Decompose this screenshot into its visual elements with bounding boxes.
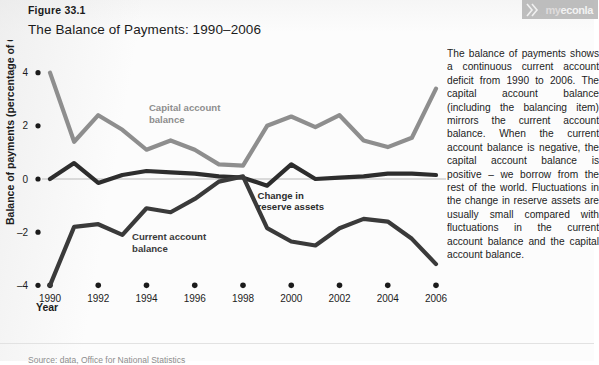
series-label: Current accountbalance <box>132 231 207 254</box>
y-tick-dot <box>35 70 40 75</box>
x-tick-dot <box>385 283 391 289</box>
y-tick-label: 0 <box>22 174 28 185</box>
balance-of-payments-chart: 420–2–4 19901992199419961998200020022004… <box>0 40 470 330</box>
y-tick-label: –4 <box>17 280 29 291</box>
series-line <box>50 176 436 285</box>
brand-name-prefix: my <box>545 4 560 16</box>
y-tick-dot <box>35 230 40 235</box>
y-axis-title: Balance of payments (percentage of GDP) <box>4 40 16 225</box>
brand-name: myeconla <box>545 4 593 16</box>
x-tick-label: 2004 <box>377 293 400 304</box>
x-tick-dot <box>337 283 343 289</box>
x-tick-dot <box>433 283 439 289</box>
figure-title: The Balance of Payments: 1990–2006 <box>28 22 261 37</box>
x-tick-dot <box>144 283 150 289</box>
x-tick-dot <box>192 283 198 289</box>
y-tick-dot <box>35 123 40 128</box>
double-chevron-icon <box>526 3 542 17</box>
x-tick-label: 2006 <box>425 293 448 304</box>
x-axis-ticks: 199019921994199619982000200220042006 <box>39 283 448 305</box>
series-line <box>50 73 436 166</box>
series-label: Capital accountbalance <box>149 102 221 125</box>
x-tick-label: 1992 <box>87 293 110 304</box>
y-tick-label: –2 <box>17 227 29 238</box>
x-tick-label: 1996 <box>184 293 207 304</box>
footer-divider <box>0 343 594 344</box>
x-tick-label: 1998 <box>232 293 255 304</box>
x-axis-title: Year <box>36 301 58 313</box>
x-tick-label: 2002 <box>328 293 351 304</box>
x-tick-label: 2000 <box>280 293 303 304</box>
y-tick-dot <box>35 176 40 181</box>
x-tick-dot <box>288 283 294 289</box>
y-tick-label: 4 <box>22 67 28 78</box>
x-tick-dot <box>240 283 246 289</box>
y-tick-dot <box>35 283 40 288</box>
x-tick-dot <box>95 283 101 289</box>
y-axis-ticks: 420–2–4 <box>17 67 41 291</box>
figure-caption-text: The balance of payments shows a continuo… <box>447 47 599 322</box>
myeconlab-badge[interactable]: myeconla <box>522 0 598 19</box>
chart-svg: 420–2–4 19901992199419961998200020022004… <box>0 40 470 330</box>
source-note: Source: data, Office for National Statis… <box>28 355 185 365</box>
x-tick-label: 1994 <box>135 293 158 304</box>
y-tick-label: 2 <box>22 120 28 131</box>
series-label: Change inreserve assets <box>257 190 324 213</box>
figure-number: Figure 33.1 <box>28 4 86 16</box>
brand-name-main: econla <box>561 4 593 16</box>
